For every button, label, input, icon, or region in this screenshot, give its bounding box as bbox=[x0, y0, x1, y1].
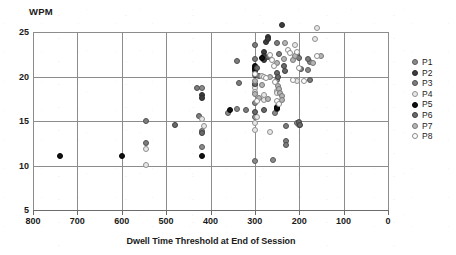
data-point-p3 bbox=[234, 58, 240, 64]
data-point-p3 bbox=[252, 42, 258, 48]
x-tick-label: 200 bbox=[281, 216, 317, 226]
gridline-vertical bbox=[211, 32, 212, 210]
data-point-p4 bbox=[292, 42, 298, 48]
data-point-p6 bbox=[254, 65, 260, 71]
gridline-vertical bbox=[33, 32, 34, 210]
data-point-p8 bbox=[263, 75, 269, 81]
data-point-p1 bbox=[199, 144, 205, 150]
data-point-p1 bbox=[270, 157, 276, 163]
data-point-p6 bbox=[282, 68, 288, 74]
legend-item-p8[interactable]: P8 bbox=[412, 131, 454, 142]
legend-item-p7[interactable]: P7 bbox=[412, 121, 454, 132]
legend-label: P5 bbox=[422, 100, 432, 109]
legend-label: P8 bbox=[422, 132, 432, 141]
data-point-p6 bbox=[261, 107, 267, 113]
data-point-p1 bbox=[252, 158, 258, 164]
legend-marker-icon bbox=[412, 123, 418, 129]
legend-marker-icon bbox=[412, 91, 418, 97]
data-point-p3 bbox=[283, 142, 289, 148]
data-point-p7 bbox=[252, 78, 258, 84]
data-point-p8 bbox=[276, 101, 282, 107]
data-point-p8 bbox=[314, 53, 320, 59]
legend-label: P1 bbox=[422, 58, 432, 67]
x-tick-mark bbox=[211, 210, 212, 215]
legend-marker-icon bbox=[412, 133, 418, 139]
x-tick-label: 100 bbox=[326, 216, 362, 226]
data-point-p8 bbox=[290, 77, 296, 83]
y-axis-title: WPM bbox=[29, 6, 53, 17]
data-point-p8 bbox=[254, 98, 260, 104]
data-point-p4 bbox=[267, 129, 273, 135]
legend-item-p4[interactable]: P4 bbox=[412, 89, 454, 100]
data-point-p3 bbox=[243, 107, 249, 113]
legend-marker-icon bbox=[412, 102, 418, 108]
data-point-p2 bbox=[199, 95, 205, 101]
data-point-p6 bbox=[172, 122, 178, 128]
data-point-p5 bbox=[199, 153, 205, 159]
x-tick-mark bbox=[33, 210, 34, 215]
legend-item-p5[interactable]: P5 bbox=[412, 99, 454, 110]
legend-item-p3[interactable]: P3 bbox=[412, 78, 454, 89]
x-tick-label: 700 bbox=[59, 216, 95, 226]
data-point-p2 bbox=[279, 22, 285, 28]
x-tick-label: 600 bbox=[104, 216, 140, 226]
gridline-vertical bbox=[77, 32, 78, 210]
legend-item-p1[interactable]: P1 bbox=[412, 57, 454, 68]
data-point-p3 bbox=[252, 56, 258, 62]
data-point-p3 bbox=[143, 118, 149, 124]
x-tick-mark bbox=[299, 210, 300, 215]
legend: P1P2P3P4P5P6P7P8 bbox=[412, 57, 454, 142]
y-tick-label: 15 bbox=[3, 116, 29, 126]
data-point-p8 bbox=[272, 79, 278, 85]
x-tick-label: 400 bbox=[193, 216, 229, 226]
legend-marker-icon bbox=[412, 70, 418, 76]
data-point-p5 bbox=[57, 153, 63, 159]
data-point-p3 bbox=[283, 123, 289, 129]
data-point-p4 bbox=[252, 127, 258, 133]
gridline-vertical bbox=[166, 32, 167, 210]
x-axis-title: Dwell Time Threshold at End of Session bbox=[33, 236, 389, 246]
data-point-p7 bbox=[282, 40, 288, 46]
scatter-chart: WPM 510152025 8007006005004003002001000 … bbox=[0, 0, 456, 255]
x-tick-mark bbox=[77, 210, 78, 215]
x-tick-label: 800 bbox=[15, 216, 51, 226]
data-point-p8 bbox=[301, 78, 307, 84]
y-tick-label: 10 bbox=[3, 161, 29, 171]
gridline-vertical bbox=[122, 32, 123, 210]
data-point-p7 bbox=[265, 96, 271, 102]
data-point-p6 bbox=[297, 122, 303, 128]
gridline-vertical bbox=[388, 32, 389, 210]
data-point-p4 bbox=[143, 162, 149, 168]
x-tick-mark bbox=[255, 210, 256, 215]
legend-label: P2 bbox=[422, 69, 432, 78]
data-point-p2 bbox=[265, 36, 271, 42]
data-point-p4 bbox=[252, 120, 258, 126]
data-point-p4 bbox=[312, 36, 318, 42]
data-point-p1 bbox=[305, 67, 311, 73]
data-point-p4 bbox=[199, 116, 205, 122]
x-tick-label: 300 bbox=[237, 216, 273, 226]
data-point-p5 bbox=[119, 153, 125, 159]
legend-label: P3 bbox=[422, 79, 432, 88]
data-point-p4 bbox=[314, 25, 320, 31]
data-point-p7 bbox=[310, 60, 316, 66]
legend-item-p2[interactable]: P2 bbox=[412, 68, 454, 79]
data-point-p1 bbox=[234, 106, 240, 112]
data-point-p7 bbox=[259, 82, 265, 88]
y-tick-label: 20 bbox=[3, 72, 29, 82]
gridline-vertical bbox=[344, 32, 345, 210]
data-point-p3 bbox=[307, 77, 313, 83]
legend-label: P4 bbox=[422, 90, 432, 99]
data-point-p3 bbox=[236, 80, 242, 86]
data-point-p5 bbox=[227, 107, 233, 113]
data-point-p6 bbox=[199, 130, 205, 136]
data-point-p6 bbox=[252, 109, 258, 115]
x-tick-mark bbox=[122, 210, 123, 215]
legend-marker-icon bbox=[412, 112, 418, 118]
legend-item-p6[interactable]: P6 bbox=[412, 110, 454, 121]
x-tick-mark bbox=[166, 210, 167, 215]
legend-label: P7 bbox=[422, 122, 432, 131]
y-tick-label: 25 bbox=[3, 27, 29, 37]
y-tick-label: 5 bbox=[3, 205, 29, 215]
x-tick-label: 500 bbox=[148, 216, 184, 226]
